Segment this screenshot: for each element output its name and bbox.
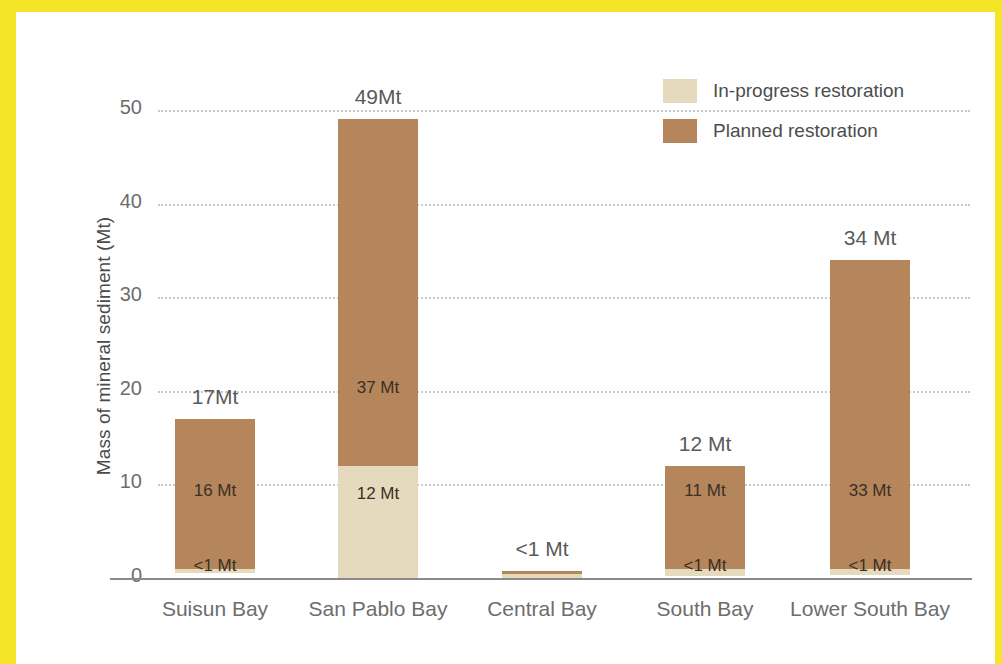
legend-item-planned[interactable]: Planned restoration — [663, 114, 904, 148]
bar-segment-in-progress[interactable] — [338, 466, 418, 578]
y-tick-label: 40 — [82, 190, 142, 213]
legend-swatch-planned — [663, 119, 697, 143]
y-tick-label: 10 — [82, 470, 142, 493]
gridline-40 — [158, 204, 970, 206]
bar-san-pablo-bay[interactable] — [338, 119, 418, 578]
legend-swatch-in-progress — [663, 79, 697, 103]
bar-total-label: 34 Mt — [795, 226, 945, 250]
legend-label-planned: Planned restoration — [713, 120, 878, 142]
bar-segment-planned[interactable] — [338, 119, 418, 465]
bar-segment-in-progress[interactable] — [502, 574, 582, 578]
plot-area: Mass of mineral sediment (Mt) 0102030405… — [0, 0, 1002, 664]
y-tick-label: 30 — [82, 283, 142, 306]
y-tick-label: 50 — [82, 96, 142, 119]
legend: In-progress restoration Planned restorat… — [663, 74, 904, 154]
y-tick-label: 0 — [82, 564, 142, 587]
bar-segment-in-progress[interactable] — [665, 569, 745, 576]
x-tick-label: Lower South Bay — [760, 597, 980, 621]
bar-total-label: 12 Mt — [630, 432, 780, 456]
legend-label-in-progress: In-progress restoration — [713, 80, 904, 102]
bar-segment-in-progress[interactable] — [175, 569, 255, 574]
bar-south-bay[interactable] — [665, 466, 745, 578]
bar-suisun-bay[interactable] — [175, 419, 255, 578]
bar-segment-planned[interactable] — [175, 419, 255, 569]
x-axis-line — [110, 578, 972, 580]
bar-segment-planned[interactable] — [665, 466, 745, 569]
chart-page: Mass of mineral sediment (Mt) 0102030405… — [0, 0, 1002, 664]
bar-total-label: 49Mt — [303, 85, 453, 109]
bar-total-label: <1 Mt — [467, 537, 617, 561]
bar-segment-in-progress[interactable] — [830, 569, 910, 576]
bar-segment-planned[interactable] — [830, 260, 910, 569]
bar-total-label: 17Mt — [140, 385, 290, 409]
legend-item-in-progress[interactable]: In-progress restoration — [663, 74, 904, 108]
bar-lower-south-bay[interactable] — [830, 260, 910, 578]
y-tick-label: 20 — [82, 377, 142, 400]
bar-central-bay[interactable] — [502, 571, 582, 578]
